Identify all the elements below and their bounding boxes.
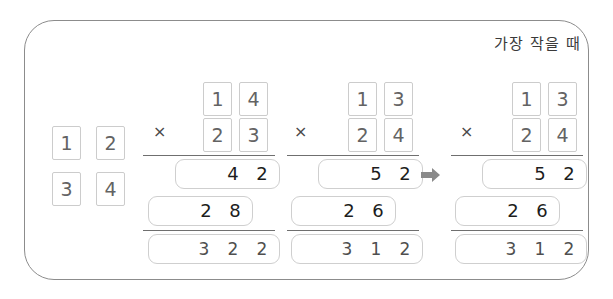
- rule-above-total-1: [143, 230, 275, 231]
- partial-3a-digit-0: 5: [527, 160, 553, 188]
- partial-3a-digit-1: 2: [556, 160, 582, 188]
- multiplicand-tens-3[interactable]: 1: [512, 82, 541, 116]
- total-3-digit-1: 1: [527, 235, 553, 263]
- multiplicand-ones-1[interactable]: 4: [239, 82, 268, 116]
- arrow-right-icon: [421, 167, 441, 183]
- total-3-digit-0: 3: [498, 235, 524, 263]
- total-2-digit-2: 2: [392, 235, 418, 263]
- total-3-digit-2: 2: [556, 235, 582, 263]
- partial-product-1b[interactable]: 2 8: [148, 196, 253, 226]
- total-product-3[interactable]: 3 1 2: [455, 234, 587, 264]
- pool-tile-1[interactable]: 1: [52, 126, 81, 160]
- multiplier-tens-2[interactable]: 2: [348, 118, 377, 152]
- total-1-digit-1: 2: [220, 235, 246, 263]
- rule-above-total-2: [287, 230, 419, 231]
- rule-above-partials-2: [287, 155, 419, 156]
- multiplicand-ones-2[interactable]: 3: [384, 82, 413, 116]
- total-2-digit-1: 1: [363, 235, 389, 263]
- pool-tile-3[interactable]: 3: [52, 172, 81, 206]
- partial-product-1a[interactable]: 4 2: [175, 159, 280, 189]
- digit-tiles-pool: 1 2 3 4: [52, 126, 132, 212]
- partial-1b-digit-1: 8: [222, 197, 248, 225]
- multiply-sign-2: ×: [294, 122, 307, 141]
- pool-tile-2[interactable]: 2: [96, 126, 125, 160]
- rule-above-total-3: [451, 230, 583, 231]
- pool-tile-4[interactable]: 4: [96, 172, 125, 206]
- partial-3b-digit-1: 6: [529, 197, 555, 225]
- multiply-sign-3: ×: [460, 122, 473, 141]
- total-2-digit-0: 3: [334, 235, 360, 263]
- page-title: 가장 작을 때: [494, 32, 581, 53]
- multiplier-ones-2[interactable]: 4: [384, 118, 413, 152]
- partial-1b-digit-0: 2: [193, 197, 219, 225]
- partial-product-3a[interactable]: 5 2: [482, 159, 587, 189]
- partial-product-3b[interactable]: 2 6: [455, 196, 560, 226]
- rule-above-partials-3: [451, 155, 583, 156]
- worksheet-canvas: 가장 작을 때 1 2 3 4 × 1 4 2 3 4 2 2 8 3 2 2 …: [0, 0, 613, 299]
- partial-product-2a[interactable]: 5 2: [318, 159, 423, 189]
- multiplier-tens-3[interactable]: 2: [512, 118, 541, 152]
- total-product-1[interactable]: 3 2 2: [148, 234, 280, 264]
- multiply-sign-1: ×: [153, 122, 166, 141]
- multiplier-tens-1[interactable]: 2: [203, 118, 232, 152]
- total-1-digit-2: 2: [249, 235, 275, 263]
- rule-above-partials-1: [143, 155, 275, 156]
- partial-3b-digit-0: 2: [500, 197, 526, 225]
- partial-1a-digit-0: 4: [220, 160, 246, 188]
- arrow-right-glyph: [421, 167, 441, 183]
- partial-1a-digit-1: 2: [249, 160, 275, 188]
- multiplicand-tens-1[interactable]: 1: [203, 82, 232, 116]
- partial-2a-digit-1: 2: [392, 160, 418, 188]
- multiplicand-tens-2[interactable]: 1: [348, 82, 377, 116]
- partial-product-2b[interactable]: 2 6: [291, 196, 396, 226]
- partial-2b-digit-0: 2: [336, 197, 362, 225]
- partial-2a-digit-0: 5: [363, 160, 389, 188]
- total-1-digit-0: 3: [191, 235, 217, 263]
- total-product-2[interactable]: 3 1 2: [291, 234, 423, 264]
- multiplier-ones-3[interactable]: 4: [548, 118, 577, 152]
- multiplier-ones-1[interactable]: 3: [239, 118, 268, 152]
- multiplicand-ones-3[interactable]: 3: [548, 82, 577, 116]
- partial-2b-digit-1: 6: [365, 197, 391, 225]
